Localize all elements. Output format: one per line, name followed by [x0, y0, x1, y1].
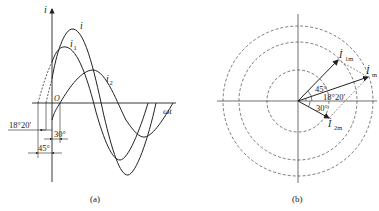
figure: i i 1 i 2 i ωt O 18°20′ 30° 45° (a)	[0, 0, 379, 211]
angle-label-30: 30°	[54, 129, 66, 139]
panel-a-waveforms: i i 1 i 2 i ωt O 18°20′ 30° 45° (a)	[8, 4, 176, 204]
angle-label-b-30: 30°	[316, 103, 328, 113]
label-I2m: İ	[327, 118, 332, 129]
label-I2m-sub: 2m	[334, 124, 342, 131]
parallelogram-side-1	[338, 60, 368, 77]
label-Im: İ	[365, 65, 370, 76]
curve-label-i1-sub: 1	[74, 44, 77, 51]
panel-b-phasors: İ 1m İ m İ 2m 45° 18°20′ 30° (b)	[217, 14, 377, 204]
label-I1m-sub: 1m	[345, 55, 353, 62]
caption-a: (a)	[90, 194, 100, 204]
angle-label-45: 45°	[38, 143, 50, 153]
arc-30	[308, 101, 310, 107]
origin-label: O	[54, 94, 60, 103]
y-axis-label: i	[44, 4, 47, 15]
arc-45	[308, 91, 312, 101]
caption-b: (b)	[292, 194, 303, 204]
curve-i-dashed-extension	[46, 79, 52, 103]
angle-label-b-18-20: 18°20′	[323, 92, 345, 102]
curve-label-i2-sub: 2	[110, 79, 113, 86]
x-axis-label: ωt	[163, 106, 172, 116]
curve-label-i: i	[80, 20, 83, 31]
curve-i1-dashed-extension	[38, 62, 52, 103]
label-Im-sub: m	[372, 71, 377, 78]
curve-i	[52, 29, 156, 175]
angle-label-18-20: 18°20′	[9, 120, 31, 130]
label-I1m: İ	[338, 49, 343, 60]
